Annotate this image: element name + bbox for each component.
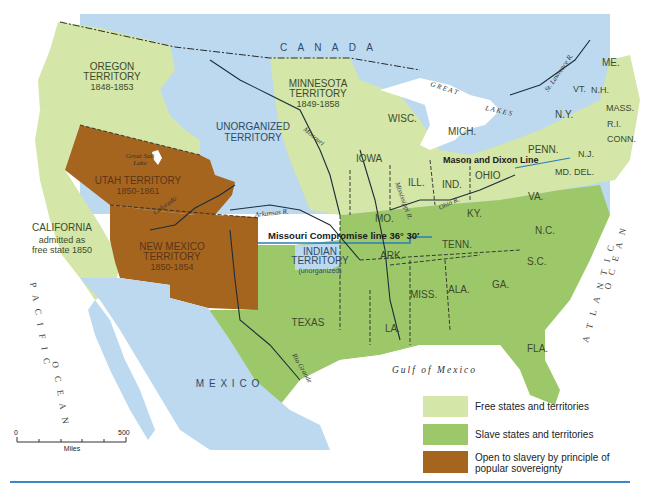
legend: Free states and territories Slave states… (423, 396, 610, 474)
label-utah: UTAH TERRITORY (95, 175, 182, 186)
label-indian-type: TERRITORY (291, 255, 349, 266)
label-california-3: free state 1850 (32, 245, 92, 255)
legend-swatch-slave (423, 424, 468, 445)
label-missouri-compromise: Missouri Compromise line 36° 30′ (268, 230, 420, 241)
label-state-ri: R.I. (607, 119, 621, 129)
label-oregon-years: 1848-1853 (90, 82, 133, 92)
label-state-del: DEL. (574, 167, 594, 177)
label-minnesota-type: TERRITORY (289, 88, 347, 99)
label-minnesota-years: 1849-1858 (296, 99, 339, 109)
label-state-ohio: OHIO (475, 170, 501, 181)
label-unorganized: UNORGANIZED (216, 121, 290, 132)
label-state-ny: N.Y. (555, 109, 573, 120)
label-state-ga: GA. (492, 279, 509, 290)
label-state-fla: FLA. (527, 343, 548, 354)
label-great-salt-lake-2: Lake (132, 159, 147, 167)
label-utah-years: 1850-1861 (116, 186, 159, 196)
label-gulf-of-mexico: Gulf of Mexico (392, 365, 477, 375)
label-state-tenn: TENN. (442, 239, 472, 250)
legend-label-popular-sovereignty-2: popular sovereignty (475, 463, 562, 474)
label-state-conn: CONN. (607, 134, 636, 144)
label-state-md: MD. (555, 167, 572, 177)
legend-label-popular-sovereignty: Open to slavery by principle of (475, 452, 610, 463)
label-state-nc: N.C. (535, 225, 555, 236)
label-state-ill: ILL. (408, 177, 425, 188)
legend-label-slave: Slave states and territories (475, 429, 593, 440)
label-state-penn: PENN. (528, 144, 559, 155)
label-oregon-type: TERRITORY (83, 71, 141, 82)
label-state-me: ME. (602, 57, 620, 68)
label-state-wisc: WISC. (388, 113, 417, 124)
legend-swatch-popular-sovereignty (423, 451, 468, 473)
label-state-ark: ARK. (380, 250, 403, 261)
legend-label-free: Free states and territories (475, 401, 589, 412)
label-state-ky: KY. (467, 208, 482, 219)
label-pacific: P A C I F I C (28, 282, 53, 368)
label-indian-note: (unorganized) (298, 267, 341, 275)
scale-unit: Miles (64, 445, 81, 452)
label-state-iowa: IOWA (356, 153, 383, 164)
label-mexico: M E X I C O (196, 378, 260, 389)
label-state-ind: IND. (442, 179, 462, 190)
label-state-mich: MICH. (448, 126, 476, 137)
label-new-mexico-years: 1850-1854 (150, 262, 193, 272)
label-state-vt: VT. (573, 84, 586, 94)
label-state-nj: N.J. (578, 149, 594, 159)
label-texas: TEXAS (292, 317, 325, 328)
label-state-mass: MASS. (606, 103, 634, 113)
label-state-nh: N.H. (591, 85, 609, 95)
scale-max: 500 (118, 429, 130, 436)
label-unorganized-2: TERRITORY (224, 132, 282, 143)
label-state-mo: MO. (375, 213, 394, 224)
label-mason-dixon: Mason and Dixon Line (443, 155, 539, 165)
label-state-la: LA. (385, 323, 400, 334)
legend-swatch-free (423, 396, 468, 417)
scale-bar: 0 500 Miles (14, 429, 130, 452)
label-pacific-ocean: O C E A N (50, 361, 71, 428)
label-state-sc: S.C. (527, 256, 546, 267)
label-california: CALIFORNIA (32, 222, 92, 233)
label-new-mexico-type: TERRITORY (143, 251, 201, 262)
label-canada: C A N A D A (280, 42, 377, 53)
label-state-va: VA. (528, 191, 543, 202)
scale-min: 0 (14, 429, 18, 436)
label-state-miss: MISS. (410, 289, 437, 300)
label-california-2: admitted as (39, 235, 86, 245)
label-state-ala: ALA. (448, 284, 470, 295)
map-of-us-1850s: C A N A D A OREGON TERRITORY 1848-1853 M… (0, 0, 653, 490)
